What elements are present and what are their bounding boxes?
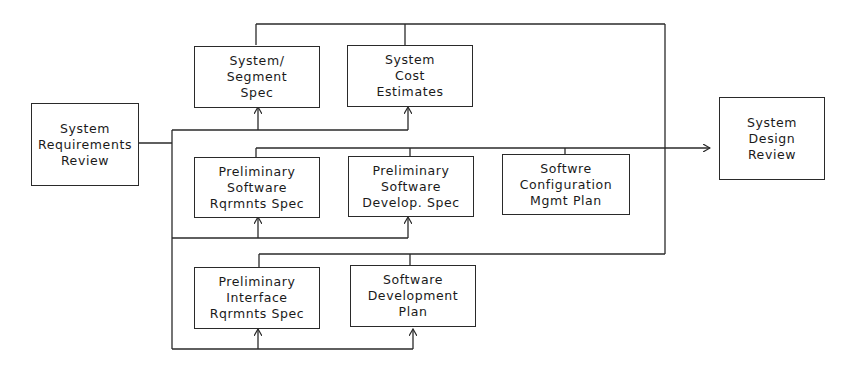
- node-system-cost-estimates: System Cost Estimates: [347, 45, 473, 107]
- node-system-design-review: System Design Review: [719, 97, 825, 180]
- node-label: Preliminary Software Develop. Spec: [362, 163, 460, 211]
- node-preliminary-software-rqrmnts-spec: Preliminary Software Rqrmnts Spec: [194, 157, 320, 218]
- node-system-segment-spec: System/ Segment Spec: [194, 46, 320, 108]
- node-label: Preliminary Interface Rqrmnts Spec: [210, 274, 305, 322]
- node-label: Preliminary Software Rqrmnts Spec: [210, 164, 305, 212]
- node-preliminary-interface-rqrmnts-spec: Preliminary Interface Rqrmnts Spec: [194, 267, 320, 329]
- node-label: System/ Segment Spec: [227, 53, 287, 101]
- node-label: System Requirements Review: [38, 121, 132, 169]
- node-label: System Design Review: [747, 115, 797, 163]
- node-software-development-plan: Software Development Plan: [350, 265, 476, 327]
- node-software-configuration-mgmt-plan: Softwre Configuration Mgmt Plan: [502, 154, 630, 215]
- node-label: Software Development Plan: [368, 272, 459, 320]
- node-label: Softwre Configuration Mgmt Plan: [520, 161, 613, 209]
- node-label: System Cost Estimates: [376, 52, 443, 100]
- node-system-requirements-review: System Requirements Review: [31, 103, 139, 186]
- node-preliminary-software-develop-spec: Preliminary Software Develop. Spec: [348, 156, 474, 217]
